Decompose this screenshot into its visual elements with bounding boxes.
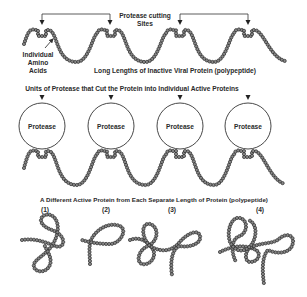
active-protein-number: (1) bbox=[41, 206, 49, 214]
protease-label: Protease bbox=[166, 123, 194, 130]
active-heading: A Different Active Protein from Each Sep… bbox=[40, 196, 268, 203]
cutting-sites-label-line1: Protease cutting bbox=[119, 12, 171, 20]
amino-acid-bead bbox=[81, 239, 84, 242]
arrow-down-icon bbox=[40, 20, 45, 25]
arrow-down-icon bbox=[40, 95, 45, 100]
amino-acid-pointer bbox=[45, 40, 52, 48]
protease-label: Protease bbox=[28, 123, 56, 130]
amino-acid-bead bbox=[281, 182, 284, 185]
amino-acid-bead bbox=[248, 219, 251, 222]
active-protein-number: (2) bbox=[102, 206, 110, 214]
protease-label: Protease bbox=[234, 123, 262, 130]
active-protein-3 bbox=[128, 222, 201, 276]
active-protein-4 bbox=[218, 216, 294, 284]
protease-unit: Protease bbox=[157, 103, 203, 149]
arrow-down-icon bbox=[108, 20, 113, 25]
amino-acid-bead bbox=[170, 273, 173, 276]
polypeptide-chain-bound bbox=[22, 149, 285, 187]
amino-acid-bead bbox=[283, 59, 286, 62]
protease-diagram: Protease cutting Sites Individual Amino … bbox=[0, 0, 307, 297]
polypeptide-caption: Long Lengths of Inactive Viral Protein (… bbox=[94, 67, 256, 75]
protease-unit: Protease bbox=[19, 103, 65, 149]
protease-label: Protease bbox=[97, 123, 125, 130]
cutting-site-bracket-right bbox=[180, 14, 248, 21]
amino-acid-bead bbox=[262, 281, 265, 284]
amino-acid-bead bbox=[43, 244, 46, 247]
arrow-down-icon bbox=[246, 95, 251, 100]
arrow-down-icon bbox=[246, 20, 251, 25]
arrow-down-icon bbox=[109, 95, 114, 100]
amino-label-line2: Amino bbox=[28, 59, 49, 66]
section-protease-units: Units of Protease that Cut the Protein i… bbox=[19, 85, 285, 187]
units-heading: Units of Protease that Cut the Protein i… bbox=[25, 85, 239, 92]
cutting-site-bracket-left bbox=[42, 14, 110, 21]
protease-unit: Protease bbox=[88, 103, 134, 149]
diagram-canvas: Protease cutting Sites Individual Amino … bbox=[0, 0, 307, 297]
section-polypeptide: Protease cutting Sites Individual Amino … bbox=[22, 12, 286, 75]
amino-label-line3: Acids bbox=[29, 67, 47, 74]
protease-unit: Protease bbox=[225, 103, 271, 149]
active-protein-number: (4) bbox=[256, 206, 264, 214]
polypeptide-chain-top bbox=[22, 28, 286, 64]
active-protein-1 bbox=[20, 213, 64, 273]
active-protein-number: (3) bbox=[168, 206, 176, 214]
arrow-down-icon bbox=[178, 20, 183, 25]
active-protein-2 bbox=[81, 223, 125, 265]
cutting-sites-label-line2: Sites bbox=[137, 20, 153, 27]
arrow-down-icon bbox=[178, 95, 183, 100]
section-active-proteins: A Different Active Protein from Each Sep… bbox=[20, 196, 294, 285]
amino-label-line1: Individual bbox=[23, 51, 54, 58]
